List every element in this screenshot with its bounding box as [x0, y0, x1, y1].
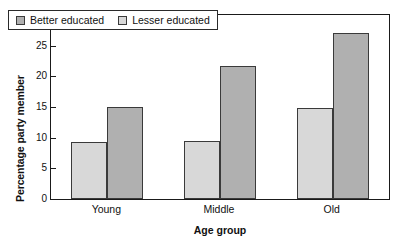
y-axis-tick-mark: [51, 168, 56, 169]
y-axis-tick-mark: [51, 46, 56, 47]
bar-old-lesser-educated: [297, 108, 333, 199]
bar-old-better-educated: [333, 33, 369, 199]
y-axis-tick-label: 25: [23, 40, 47, 52]
y-axis-tick-label: 0: [23, 193, 47, 205]
y-axis-tick-label: 15: [23, 101, 47, 113]
y-axis-tick-mark: [51, 107, 56, 108]
legend-item-better-educated: Better educated: [16, 14, 104, 26]
x-axis-tick-label-old: Old: [287, 203, 377, 215]
plot-inner: 051015202530: [51, 15, 389, 199]
x-axis-tick-label-middle: Middle: [174, 203, 264, 215]
bar-young-lesser-educated: [71, 142, 107, 199]
legend-label-better-educated: Better educated: [30, 14, 104, 26]
y-axis-tick-mark: [51, 138, 56, 139]
legend-item-lesser-educated: Lesser educated: [118, 14, 210, 26]
plot-area: 051015202530: [50, 14, 390, 200]
y-axis-tick-label: 20: [23, 70, 47, 82]
bar-middle-lesser-educated: [184, 141, 220, 199]
x-axis-tick-label-young: Young: [61, 203, 151, 215]
y-axis-tick-mark: [51, 199, 56, 200]
y-axis-tick-mark: [51, 76, 56, 77]
bar-middle-better-educated: [220, 66, 256, 199]
bar-chart-figure: Percentage party member 051015202530 Age…: [0, 0, 401, 246]
bar-young-better-educated: [107, 107, 143, 199]
y-axis-tick-label: 10: [23, 132, 47, 144]
legend-swatch-lesser-educated: [118, 16, 127, 25]
legend-label-lesser-educated: Lesser educated: [132, 14, 210, 26]
x-axis-title: Age group: [50, 224, 390, 236]
chart-legend: Better educated Lesser educated: [8, 10, 218, 30]
legend-swatch-better-educated: [16, 16, 25, 25]
y-axis-tick-label: 5: [23, 162, 47, 174]
